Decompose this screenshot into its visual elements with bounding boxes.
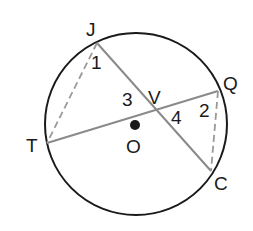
- center-point-o: [130, 120, 140, 130]
- label-angle-2: 2: [199, 100, 210, 121]
- label-point-t: T: [26, 135, 38, 156]
- label-point-v: V: [148, 87, 161, 108]
- circle-diagram: J T Q C V O 1 2 3 4: [0, 0, 253, 231]
- label-point-c: C: [214, 173, 228, 194]
- label-point-o: O: [126, 136, 141, 157]
- label-point-j: J: [86, 19, 96, 40]
- label-angle-1: 1: [91, 52, 102, 73]
- label-angle-3: 3: [122, 89, 133, 110]
- segment-qc-dashed: [211, 91, 218, 171]
- label-point-q: Q: [223, 73, 238, 94]
- label-angle-4: 4: [171, 107, 182, 128]
